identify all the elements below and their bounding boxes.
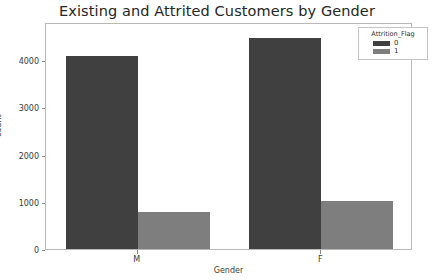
- bar-M-flag-1: [138, 212, 210, 249]
- x-tick-label: M: [133, 255, 140, 264]
- x-axis-label: Gender: [45, 266, 412, 275]
- y-tick-label: 0: [0, 246, 39, 255]
- x-tick-label: F: [318, 255, 323, 264]
- plot-area: [45, 23, 412, 250]
- x-tick-mark: [320, 250, 321, 254]
- y-tick-mark: [42, 250, 46, 251]
- bar-F-flag-1: [321, 201, 393, 249]
- legend-swatch-icon: [373, 41, 390, 46]
- y-tick-label: 3000: [0, 104, 39, 113]
- legend-swatch-icon: [373, 49, 390, 54]
- bar-F-flag-0: [249, 38, 321, 249]
- legend-item-0[interactable]: 0: [373, 40, 423, 47]
- x-tick-mark: [137, 250, 138, 254]
- legend-item-label: 0: [394, 40, 398, 47]
- legend-title: Attrition_Flag: [363, 30, 423, 38]
- y-tick-label: 1000: [0, 198, 39, 207]
- bars-container: [46, 24, 411, 249]
- legend-entries: 01: [363, 40, 423, 55]
- y-tick-label: 2000: [0, 151, 39, 160]
- chart-figure: Existing and Attrited Customers by Gende…: [0, 0, 434, 280]
- y-axis-label: count: [0, 114, 3, 137]
- bar-M-flag-0: [66, 56, 138, 249]
- y-tick-label: 4000: [0, 57, 39, 66]
- legend-item-1[interactable]: 1: [373, 48, 423, 55]
- legend-item-label: 1: [394, 48, 398, 55]
- chart-title: Existing and Attrited Customers by Gende…: [0, 3, 434, 19]
- legend: Attrition_Flag 01: [358, 27, 428, 60]
